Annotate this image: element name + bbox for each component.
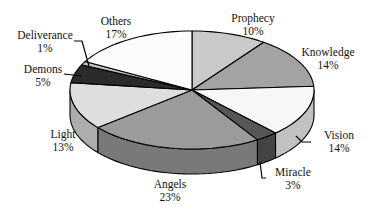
label-angels-name: Angels [154,178,187,191]
label-knowledge-pct: 14% [301,59,354,72]
label-others-pct: 17% [101,28,132,41]
label-miracle: Miracle 3% [275,166,311,192]
label-deliverance-pct: 1% [17,42,73,55]
label-vision: Vision 14% [324,129,354,155]
leader-line-miracle [260,162,266,178]
label-deliverance: Deliverance 1% [17,29,73,55]
label-knowledge-name: Knowledge [301,46,354,59]
label-prophecy-name: Prophecy [231,12,274,25]
label-prophecy-pct: 10% [231,25,274,38]
label-miracle-name: Miracle [275,166,311,179]
label-angels-pct: 23% [154,191,187,204]
label-others-name: Others [101,15,132,28]
label-demons-pct: 5% [24,76,62,89]
label-deliverance-name: Deliverance [17,29,73,42]
pie-top-slices [70,31,314,149]
label-others: Others 17% [101,15,132,41]
label-vision-name: Vision [324,129,354,142]
label-angels: Angels 23% [154,178,187,204]
label-light-name: Light [51,128,76,141]
label-miracle-pct: 3% [275,179,311,192]
label-demons: Demons 5% [24,63,62,89]
label-light-pct: 13% [51,141,76,154]
label-light: Light 13% [51,128,76,154]
label-knowledge: Knowledge 14% [301,46,354,72]
label-vision-pct: 14% [324,142,354,155]
label-prophecy: Prophecy 10% [231,12,274,38]
label-demons-name: Demons [24,63,62,76]
